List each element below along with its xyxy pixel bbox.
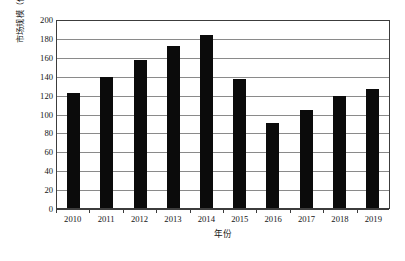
bar[interactable] [100,77,113,208]
y-axis-tick-label: 200 [40,16,53,25]
x-axis-tick-label: 2018 [323,212,356,226]
x-axis-tick-label: 2011 [89,212,122,226]
bar-series [57,21,389,208]
plot-area [56,20,390,209]
x-axis-tick-label: 2013 [156,212,189,226]
y-axis-tick-label: 160 [40,54,53,63]
x-axis-tick-label: 2014 [190,212,223,226]
y-axis-tick-label: 80 [44,129,53,138]
bar[interactable] [333,96,346,208]
bar[interactable] [300,110,313,208]
bar-slot [223,21,256,208]
x-axis-title: 年份 [56,230,390,239]
y-axis-tick-label: 0 [49,205,53,214]
y-axis-tick-label: 180 [40,35,53,44]
bar[interactable] [233,79,246,208]
y-axis-tick-label-group: 020406080100120140160180200 [26,20,53,209]
bar[interactable] [366,89,379,208]
bar[interactable] [167,46,180,208]
x-axis-tick-label: 2017 [290,212,323,226]
bar[interactable] [67,93,80,208]
bar-slot [57,21,90,208]
x-axis-tick-label: 2010 [56,212,89,226]
x-axis-tick-label: 2019 [357,212,390,226]
bar-slot [90,21,123,208]
y-axis-tick-label: 20 [44,186,53,195]
bar-slot [289,21,322,208]
bar[interactable] [200,35,213,208]
bar[interactable] [266,123,279,208]
bar-slot [190,21,223,208]
bar-chart-figure: 市场规模（亿美元） 020406080100120140160180200 20… [0,0,405,261]
bar-slot [123,21,156,208]
bar-slot [356,21,389,208]
x-axis-tick-label: 2015 [223,212,256,226]
y-axis-tick-label: 40 [44,167,53,176]
bar-slot [323,21,356,208]
x-axis-tick-label: 2016 [256,212,289,226]
bar[interactable] [134,60,147,208]
y-axis-tick-label: 60 [44,148,53,157]
y-axis-tick-label: 100 [40,110,53,119]
y-axis-tick-label: 120 [40,91,53,100]
x-axis-tick-label: 2012 [123,212,156,226]
y-axis-tick-label: 140 [40,72,53,81]
bar-slot [256,21,289,208]
x-axis-tick-label-group: 2010201120122013201420152016201720182019 [56,212,390,226]
bar-slot [157,21,190,208]
